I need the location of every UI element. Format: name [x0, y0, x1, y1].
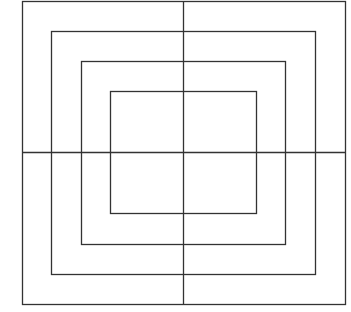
nested-squares-diagram: [0, 0, 351, 312]
